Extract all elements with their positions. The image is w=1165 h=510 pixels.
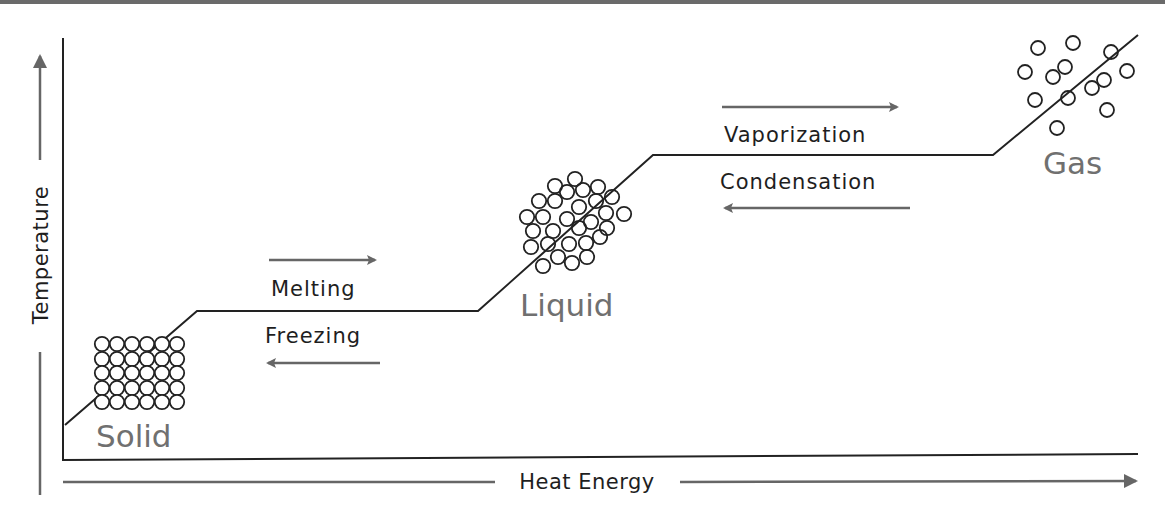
gas-label: Gas bbox=[1043, 145, 1102, 181]
freezing-label: Freezing bbox=[265, 324, 361, 348]
temperature-axis-arrow: Temperature bbox=[29, 56, 53, 495]
solid-particles-icon bbox=[95, 337, 184, 409]
x-axis-label: Heat Energy bbox=[519, 470, 655, 494]
heating-curve-diagram: Temperature Heat Energy Solid Melting Fr… bbox=[0, 0, 1165, 510]
liquid-label: Liquid bbox=[520, 287, 614, 323]
melting-label: Melting bbox=[271, 277, 356, 301]
heat-energy-axis-arrow: Heat Energy bbox=[63, 470, 1136, 494]
condensation-label: Condensation bbox=[720, 170, 876, 194]
y-axis-label: Temperature bbox=[29, 186, 53, 326]
axes bbox=[63, 38, 1138, 461]
x-axis bbox=[63, 454, 1138, 460]
solid-label: Solid bbox=[96, 418, 172, 454]
vaporization-label: Vaporization bbox=[724, 123, 866, 147]
vaporization-condensation-group: Vaporization Condensation bbox=[720, 107, 910, 208]
